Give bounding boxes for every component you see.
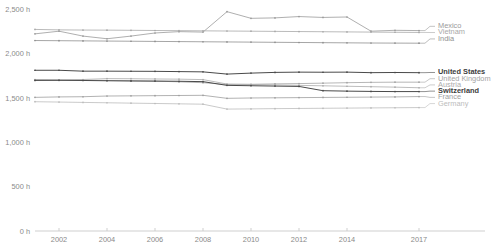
data-point-marker — [250, 108, 252, 110]
data-point-marker — [298, 97, 300, 99]
series-austria — [34, 78, 420, 89]
legend: MexicoVietnamIndiaUnited StatesUnited Ki… — [419, 21, 491, 107]
data-point-marker — [154, 30, 156, 32]
data-point-marker — [34, 101, 36, 103]
data-point-marker — [322, 82, 324, 84]
data-point-marker — [226, 85, 228, 87]
y-axis-tick-label: 1,000 h — [5, 138, 30, 147]
data-point-marker — [298, 83, 300, 85]
data-point-marker — [58, 29, 60, 31]
data-point-marker — [58, 40, 60, 42]
data-point-marker — [154, 32, 156, 34]
data-point-marker — [370, 86, 372, 88]
data-point-marker — [298, 31, 300, 33]
data-point-marker — [274, 31, 276, 33]
data-point-marker — [178, 78, 180, 80]
data-point-marker — [154, 41, 156, 43]
data-point-marker — [322, 90, 324, 92]
data-point-marker — [154, 78, 156, 80]
legend-leader-line — [419, 26, 435, 30]
data-point-marker — [178, 80, 180, 82]
data-point-marker — [346, 42, 348, 44]
data-point-marker — [130, 95, 132, 97]
x-axis-tick-label: 2008 — [195, 235, 211, 244]
data-point-marker — [322, 42, 324, 44]
x-axis-tick-label: 2002 — [51, 235, 67, 244]
data-point-marker — [274, 108, 276, 110]
series-lines — [34, 11, 420, 110]
data-point-marker — [394, 96, 396, 98]
legend-leader-line — [419, 39, 435, 43]
data-point-marker — [226, 73, 228, 75]
series-united-states — [34, 69, 420, 75]
data-point-marker — [154, 70, 156, 72]
data-point-marker — [226, 97, 228, 99]
series-france — [34, 94, 420, 99]
data-point-marker — [82, 35, 84, 37]
legend-label-india[interactable]: India — [438, 34, 455, 43]
data-point-marker — [202, 103, 204, 105]
legend-label-germany[interactable]: Germany — [438, 99, 469, 108]
data-point-marker — [346, 85, 348, 87]
data-point-marker — [202, 94, 204, 96]
data-point-marker — [322, 107, 324, 109]
line-chart: 0 h500 h1,000 h1,500 h2,000 h2,500 h 200… — [0, 0, 494, 250]
data-point-marker — [250, 17, 252, 19]
data-point-marker — [202, 41, 204, 43]
series-mexico — [34, 11, 420, 40]
data-point-marker — [34, 33, 36, 35]
data-point-marker — [226, 41, 228, 43]
data-point-marker — [34, 97, 36, 99]
x-axis-tick-label: 2014 — [339, 235, 355, 244]
data-point-marker — [130, 29, 132, 31]
data-point-marker — [274, 41, 276, 43]
data-point-marker — [58, 101, 60, 103]
data-point-marker — [202, 79, 204, 81]
series-india — [34, 40, 420, 44]
data-point-marker — [346, 90, 348, 92]
data-point-marker — [394, 29, 396, 31]
series-line — [35, 102, 419, 109]
data-point-marker — [130, 80, 132, 82]
data-point-marker — [322, 71, 324, 73]
y-axis-tick-label: 0 h — [20, 227, 30, 236]
data-point-marker — [82, 80, 84, 82]
data-point-marker — [298, 42, 300, 44]
data-point-marker — [226, 30, 228, 32]
series-line — [35, 12, 419, 39]
y-axis-tick-label: 500 h — [12, 182, 31, 191]
data-point-marker — [106, 70, 108, 72]
data-point-marker — [346, 107, 348, 109]
data-point-marker — [394, 107, 396, 109]
data-point-marker — [178, 30, 180, 32]
data-point-marker — [250, 30, 252, 32]
data-point-marker — [34, 29, 36, 31]
data-point-marker — [250, 85, 252, 87]
data-point-marker — [370, 31, 372, 33]
y-axis-tick-label: 2,000 h — [5, 49, 30, 58]
data-point-marker — [154, 80, 156, 82]
data-point-marker — [106, 29, 108, 31]
chart-canvas: 0 h500 h1,000 h1,500 h2,000 h2,500 h 200… — [0, 0, 494, 250]
x-axis-tick-label: 2006 — [147, 235, 163, 244]
data-point-marker — [274, 85, 276, 87]
data-point-marker — [130, 40, 132, 42]
data-point-marker — [346, 16, 348, 18]
data-point-marker — [58, 69, 60, 71]
data-point-marker — [394, 86, 396, 88]
data-point-marker — [322, 85, 324, 87]
data-point-marker — [346, 96, 348, 98]
data-point-marker — [130, 78, 132, 80]
data-point-marker — [226, 108, 228, 110]
data-point-marker — [34, 40, 36, 42]
data-point-marker — [154, 95, 156, 97]
data-point-marker — [106, 95, 108, 97]
data-point-marker — [82, 40, 84, 42]
data-point-marker — [106, 80, 108, 82]
series-switzerland — [34, 79, 420, 92]
data-point-marker — [370, 72, 372, 74]
data-point-marker — [394, 81, 396, 83]
data-point-marker — [394, 91, 396, 93]
data-point-marker — [202, 30, 204, 32]
series-germany — [34, 101, 420, 110]
